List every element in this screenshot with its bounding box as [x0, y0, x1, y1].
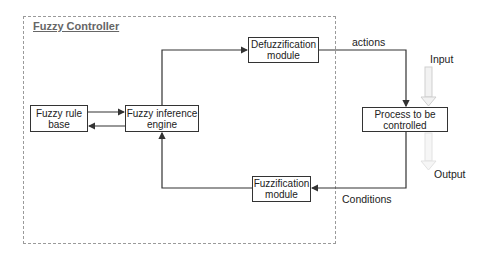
output-label: Output [434, 168, 466, 180]
conditions-label: Conditions [342, 193, 392, 205]
process-to-be-controlled-node: Process to be controlled [362, 107, 448, 132]
output-arrow-icon [421, 133, 436, 170]
fuzzy-inference-engine-node: Fuzzy inference engine [125, 105, 199, 132]
defuzzification-module-node: Defuzzification module [248, 37, 319, 63]
input-arrow-icon [421, 67, 436, 106]
fuzzy-rule-base-node: Fuzzy rule base [30, 105, 88, 132]
input-label: Input [430, 53, 453, 65]
actions-label: actions [352, 36, 385, 48]
fuzzification-module-node: Fuzzification module [252, 176, 311, 202]
